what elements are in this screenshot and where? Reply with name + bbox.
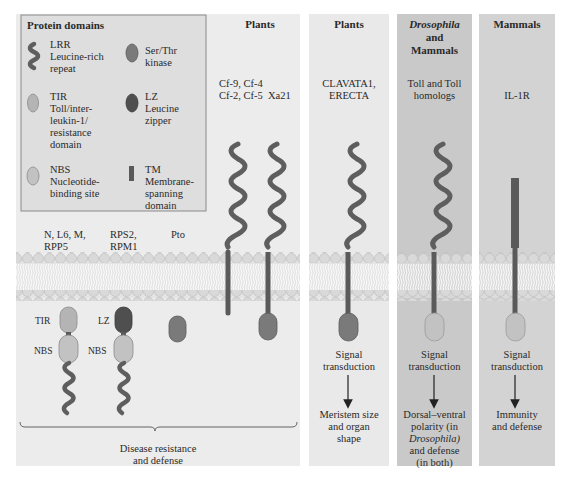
label-il1r: IL-1R [479, 90, 555, 102]
membrane [16, 252, 555, 301]
domain-label-nbs-1: NBS [34, 345, 52, 357]
signal-transduction-toll: Signal transduction [397, 349, 472, 373]
header-plants-1: Plants [230, 18, 290, 31]
protein-pto [169, 316, 186, 342]
legend-title: Protein domains [27, 19, 104, 31]
tm-legend-icon [129, 166, 134, 181]
protein-n-l6-m-rpp5 [59, 307, 78, 413]
domain-label-lz: LZ [98, 315, 110, 327]
function-disease-resistance: Disease resistance and defense [16, 443, 300, 467]
label-cf: Cf-9, Cf-4 Cf-2, Cf-5 [219, 78, 263, 102]
nbs-legend-icon [27, 167, 39, 185]
legend-tm: TM Membrane- spanning domain [145, 164, 194, 212]
brace [20, 422, 297, 431]
legend-kinase: Ser/Thr kinase [145, 45, 177, 69]
domain-label-nbs-2: NBS [88, 345, 106, 357]
label-n-l6-m-rpp5: N, L6, M, RPP5 [44, 229, 86, 253]
domain-label-tir: TIR [35, 315, 50, 327]
legend-tir: TIR Toll/inter- leukin-1/ resistance dom… [50, 91, 92, 151]
legend-lrr: LRR Leucine-rich repeat [50, 39, 104, 75]
label-rps2-rpm1: RPS2, RPM1 [110, 229, 137, 253]
function-meristem: Meristem size and organ shape [309, 409, 389, 445]
header-mammals: Mammals [479, 18, 555, 31]
header-plants-2: Plants [309, 18, 389, 31]
protein-xa21 [259, 144, 284, 340]
signal-transduction-plants: Signal transduction [309, 349, 389, 373]
label-pto: Pto [171, 229, 185, 241]
label-toll-homologs: Toll and Toll homologs [397, 78, 472, 102]
lz-legend-icon [126, 94, 138, 112]
tir-legend-icon [28, 94, 39, 112]
header-drosophila-mammals: Drosophila and Mammals [397, 18, 472, 57]
protein-rps2-rpm1 [114, 307, 133, 413]
signal-transduction-il1r: Signal transduction [479, 349, 555, 373]
legend-nbs: NBS Nucleotide- binding site [50, 164, 100, 200]
kinase-legend-icon [126, 44, 138, 62]
legend-lz: LZ Leucine zipper [145, 91, 179, 127]
function-immunity: Immunity and defense [479, 409, 555, 433]
label-xa21: Xa21 [268, 90, 291, 102]
function-dorsal-ventral: Dorsal–ventral polarity (in Drosophila) … [394, 409, 475, 469]
label-clavata1-erecta: CLAVATA1, ERECTA [309, 78, 389, 102]
